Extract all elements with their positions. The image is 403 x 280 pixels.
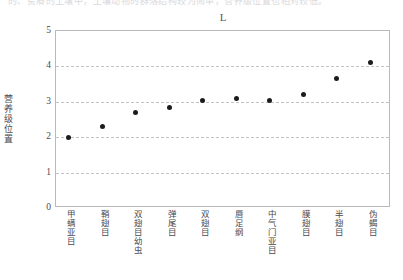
data-point xyxy=(167,105,172,110)
x-axis-tick-labels: 甲螨亚目鞘翅目双翅目幼虫弹尾目双翅目唇足纲中气门亚目膜翅目半翅目伪蝎目 xyxy=(55,210,390,280)
gridline-y-4 xyxy=(56,66,389,67)
x-tick-label: 中气门亚目 xyxy=(262,210,275,255)
x-tick-label: 双翅目幼虫 xyxy=(128,210,141,255)
y-tick-3: 3 xyxy=(33,96,51,106)
y-axis-label: 营养级位置 xyxy=(2,30,16,207)
gridline-y-3 xyxy=(56,102,389,103)
data-point xyxy=(267,98,272,103)
plot-area xyxy=(55,30,390,207)
y-axis-label-text: 营养级位置 xyxy=(3,94,16,144)
x-tick-label: 唇足纲 xyxy=(229,210,242,237)
x-tick-label: 双翅目 xyxy=(195,210,208,237)
gridline-y-2 xyxy=(56,137,389,138)
gridline-y-1 xyxy=(56,173,389,174)
y-tick-2: 2 xyxy=(33,131,51,141)
y-tick-4: 4 xyxy=(33,60,51,70)
data-point xyxy=(66,135,71,140)
data-point xyxy=(301,92,306,97)
data-point xyxy=(100,124,105,129)
x-tick-label: 膜翅目 xyxy=(296,210,309,237)
y-tick-5: 5 xyxy=(33,25,51,35)
clipped-body-text: 的、贫瘠的土壤中，土壤动物的群落结构较为简单，营养级位置也相对较低。 xyxy=(8,0,398,6)
data-point xyxy=(200,98,205,103)
chart-title: L xyxy=(55,11,391,23)
y-tick-1: 1 xyxy=(33,167,51,177)
y-axis-tick-labels: 012345 xyxy=(31,30,51,207)
x-tick-label: 伪蝎目 xyxy=(363,210,376,237)
chart-figure: 的、贫瘠的土壤中，土壤动物的群落结构较为简单，营养级位置也相对较低。 L 营养级… xyxy=(0,0,403,280)
data-point xyxy=(368,60,373,65)
data-point xyxy=(133,110,138,115)
x-tick-label: 鞘翅目 xyxy=(95,210,108,237)
data-point xyxy=(334,76,339,81)
x-tick-label: 弹尾目 xyxy=(162,210,175,237)
data-point xyxy=(234,96,239,101)
x-tick-label: 甲螨亚目 xyxy=(61,210,74,246)
y-tick-0: 0 xyxy=(33,202,51,212)
x-tick-label: 半翅目 xyxy=(329,210,342,237)
